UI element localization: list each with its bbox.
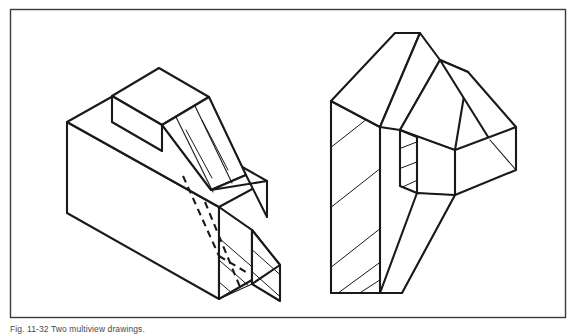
right-object-cut-face-mid-vertical bbox=[400, 130, 417, 193]
right-object-vertical-slab-front-face bbox=[331, 101, 380, 293]
figure-caption: Fig. 11-32 Two multiview drawings. bbox=[10, 324, 550, 334]
figure-container: Fig. 11-32 Two multiview drawings. bbox=[0, 0, 574, 336]
technical-drawing-svg bbox=[0, 0, 574, 336]
